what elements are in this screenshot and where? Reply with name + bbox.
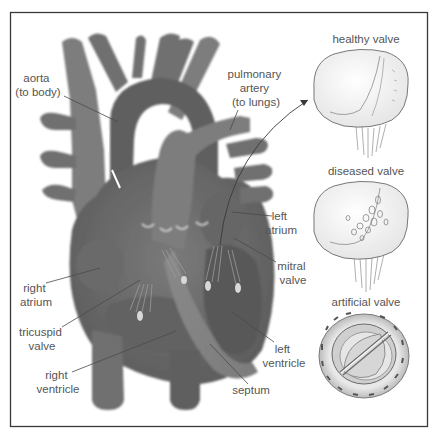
inferior-vena-cava bbox=[92, 330, 124, 410]
descending-aorta bbox=[170, 350, 200, 410]
label-septum: septum bbox=[232, 384, 270, 396]
diseased-valve-title: diseased valve bbox=[328, 165, 404, 177]
right-atrium-chamber bbox=[76, 239, 124, 291]
heart-diagram: aorta (to body) pulmonary artery (to lun… bbox=[0, 0, 437, 440]
artificial-valve-title: artificial valve bbox=[331, 296, 400, 308]
diseased-valve-ring bbox=[314, 181, 408, 259]
healthy-valve-ring bbox=[314, 49, 408, 127]
healthy-valve-title: healthy valve bbox=[332, 33, 399, 45]
